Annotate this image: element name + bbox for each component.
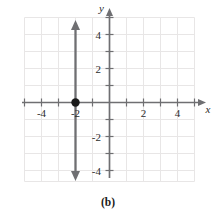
y-tick-label-neg4: -4: [92, 165, 102, 177]
plotted-point-marker: [71, 98, 79, 106]
y-axis-arrow-icon: [106, 8, 113, 16]
line-bottom-arrow-icon: [71, 171, 80, 181]
y-axis: [106, 8, 113, 178]
x-axis-label: x: [205, 103, 211, 115]
y-tick-label-pos2: 2: [96, 63, 102, 75]
coordinate-plane-graph: -4 -2 2 4 4 2 -2 -4 y x (b): [0, 0, 216, 214]
x-axis: [22, 99, 206, 106]
line-top-arrow-icon: [71, 20, 80, 30]
y-axis-label: y: [98, 2, 104, 14]
y-tick-label-neg2: -2: [92, 131, 101, 143]
x-tick-label-pos2: 2: [141, 107, 147, 119]
x-tick-label-neg4: -4: [37, 107, 47, 119]
figure-caption: (b): [101, 196, 115, 209]
x-tick-label-neg2: -2: [71, 107, 80, 119]
x-tick-label-pos4: 4: [175, 107, 181, 119]
y-tick-label-pos4: 4: [96, 29, 102, 41]
figure-container: -4 -2 2 4 4 2 -2 -4 y x (b): [0, 0, 216, 214]
